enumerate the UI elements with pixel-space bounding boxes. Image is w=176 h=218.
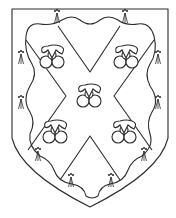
shield-outline: [12, 9, 168, 207]
ermine-spot-icon: [108, 173, 113, 187]
charge-icon: [114, 45, 138, 68]
ermine-spot-icon: [155, 50, 160, 64]
charge-icon: [40, 45, 64, 68]
wavy-border: [26, 17, 156, 198]
ermine-spot-icon: [18, 95, 23, 109]
ermine-spot-icon: [54, 9, 59, 23]
ermine-spot-icon: [18, 50, 23, 64]
ermine-spot-icon: [35, 147, 40, 161]
ermine-spot-icon: [141, 147, 146, 161]
coat-of-arms: [0, 0, 176, 218]
charge-icon: [112, 120, 136, 143]
charge-icon: [43, 120, 67, 143]
ermine-spot-icon: [122, 9, 127, 23]
charges: [40, 45, 138, 143]
charge-icon: [77, 84, 101, 107]
ermine-spot-icon: [155, 95, 160, 109]
ermine-spot-icon: [68, 173, 73, 187]
